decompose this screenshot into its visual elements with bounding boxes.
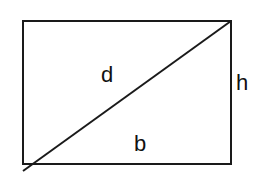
label-base: b (134, 131, 146, 156)
label-height: h (236, 70, 248, 95)
label-diagonal: d (101, 62, 113, 87)
diagonal-line (23, 21, 231, 171)
rectangle-diagram: d h b (0, 0, 260, 173)
